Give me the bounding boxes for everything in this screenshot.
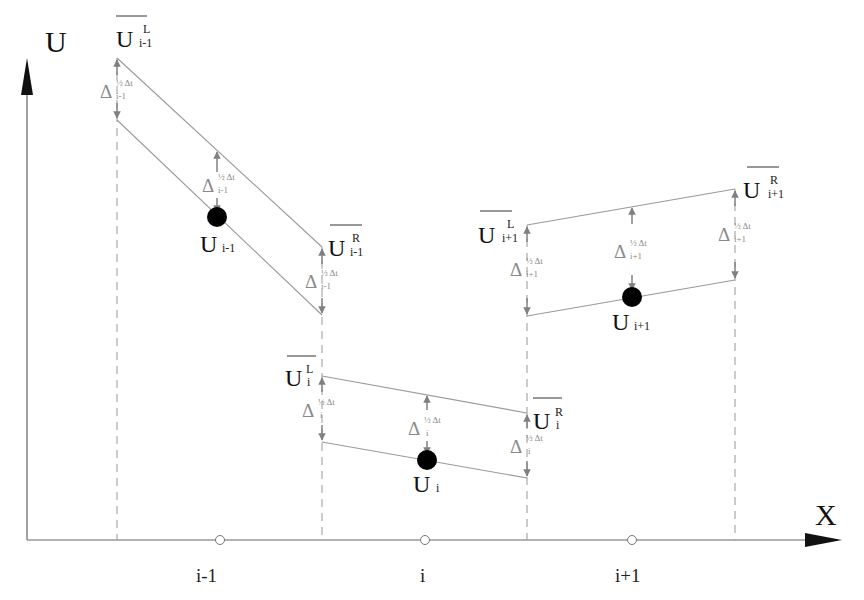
delta-label: Δ [614, 241, 626, 262]
cell-average-dot [207, 207, 227, 227]
cell-i: U L i Δ ½ Δt i Δ ½ Δt i U i U R i Δ ½ Δt… [285, 356, 563, 497]
x-tick-label: i [420, 565, 425, 586]
svg-text:i: i [320, 410, 323, 420]
svg-text:i: i [528, 446, 531, 456]
y-axis-label: U [45, 25, 67, 58]
svg-text:i-1: i-1 [116, 91, 126, 101]
cell-center-marker [216, 536, 225, 545]
cell-i-plus-1: U L i+1 Δ ½ Δt i+1 Δ ½ Δt i+1 U i+1 U R … [478, 167, 784, 335]
svg-text:i: i [426, 428, 429, 438]
y-axis [21, 58, 33, 540]
svg-text:½ Δt: ½ Δt [630, 238, 647, 248]
delta-label: Δ [302, 400, 314, 421]
delta-label: Δ [202, 175, 214, 196]
cell-average-dot [622, 287, 642, 307]
x-tick-label: i+1 [615, 565, 641, 586]
right-state-label: U [328, 235, 345, 261]
cell-average-label: U [612, 309, 629, 335]
delta-label: Δ [510, 436, 522, 457]
x-axis [27, 533, 842, 547]
x-tick-label: i-1 [196, 565, 217, 586]
cell-average-dot [417, 450, 437, 470]
svg-text:i: i [307, 375, 311, 389]
svg-text:½ Δt: ½ Δt [424, 415, 441, 425]
muscl-reconstruction-diagram: U X i-1 i i+1 U L i-1 Δ ½ Δt i-1 [0, 0, 864, 600]
svg-text:i-1: i-1 [350, 245, 363, 259]
y-axis-arrow-icon [21, 58, 33, 95]
svg-text:i+1: i+1 [630, 251, 642, 261]
cell-center-marker [628, 536, 637, 545]
delta-label: Δ [100, 81, 112, 102]
cell-center-marker [421, 536, 430, 545]
svg-text:½ Δt: ½ Δt [318, 397, 335, 407]
delta-label: Δ [510, 259, 522, 280]
left-state-label: U [116, 26, 133, 52]
svg-text:i-1: i-1 [321, 281, 331, 291]
upper-slope-line [527, 189, 735, 225]
cell-i-minus-1: U L i-1 Δ ½ Δt i-1 Δ ½ Δt i-1 U i-1 U R … [100, 16, 363, 315]
svg-text:i+1: i+1 [526, 269, 538, 279]
svg-text:½ Δt: ½ Δt [734, 221, 751, 231]
svg-text:L: L [306, 362, 313, 376]
svg-text:L: L [507, 217, 514, 231]
svg-text:i: i [556, 418, 560, 432]
svg-text:i-1: i-1 [218, 185, 228, 195]
svg-text:i+1: i+1 [634, 319, 650, 333]
svg-text:½ Δt: ½ Δt [218, 172, 235, 182]
svg-text:½ Δt: ½ Δt [526, 256, 543, 266]
svg-text:½ Δt: ½ Δt [526, 433, 543, 443]
left-state-label: U [478, 222, 495, 248]
delta-label: Δ [718, 224, 730, 245]
svg-text:R: R [352, 231, 360, 245]
delta-label: Δ [305, 271, 317, 292]
right-state-label: U [743, 177, 760, 203]
right-state-label: U [533, 408, 550, 434]
svg-text:½ Δt: ½ Δt [321, 268, 338, 278]
left-state-label: U [285, 365, 302, 391]
svg-text:R: R [555, 405, 563, 419]
svg-text:R: R [770, 173, 778, 187]
svg-text:i+1: i+1 [502, 231, 518, 245]
svg-text:i+1: i+1 [768, 187, 784, 201]
delta-label: Δ [408, 418, 420, 439]
cell-average-label: U [200, 231, 217, 257]
svg-text:½ Δt: ½ Δt [116, 78, 133, 88]
svg-text:i: i [436, 481, 440, 495]
svg-text:L: L [143, 22, 150, 36]
svg-text:i-1: i-1 [139, 36, 152, 50]
upper-slope-line [322, 376, 527, 413]
x-axis-label: X [815, 498, 837, 531]
x-axis-arrow-icon [805, 533, 842, 547]
cell-average-label: U [413, 471, 430, 497]
svg-text:i-1: i-1 [222, 241, 235, 255]
svg-text:i+1: i+1 [734, 234, 746, 244]
